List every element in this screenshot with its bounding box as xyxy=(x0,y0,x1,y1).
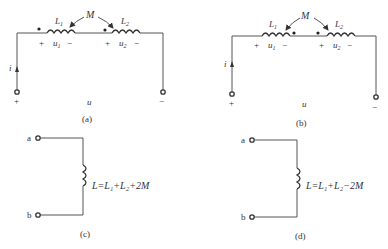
u1-label: u1 xyxy=(268,40,276,51)
current-label: i xyxy=(224,59,227,69)
u1-plus: + xyxy=(39,38,44,48)
u2-label: u2 xyxy=(333,40,341,51)
l2-label: L2 xyxy=(120,16,129,27)
inductor-l1-coil xyxy=(262,33,290,36)
u1-minus: − xyxy=(282,40,287,50)
mutual-label: M xyxy=(85,9,95,20)
terminal-a-label: a xyxy=(241,135,245,145)
figure-a: M L1 L2 + u1 − + u2 − i + − u (a) xyxy=(9,9,165,124)
terminal-b xyxy=(250,215,254,219)
terminal-plus xyxy=(15,90,19,94)
mutual-arrow-left xyxy=(286,18,300,30)
u2-plus: + xyxy=(319,40,324,50)
voltage-label: u xyxy=(302,99,307,109)
inductor-coil xyxy=(297,168,300,189)
u2-label: u2 xyxy=(119,38,127,49)
current-arrow-icon xyxy=(15,66,19,72)
dot-l2 xyxy=(316,31,319,34)
u1-plus: + xyxy=(254,40,259,50)
terminal-b-label: b xyxy=(27,210,32,220)
l1-label: L1 xyxy=(54,16,63,27)
mutual-arrow-left xyxy=(70,17,84,27)
equivalent-inductance-formula: L=L₁+L₂−2M xyxy=(305,180,364,191)
figure-b: M L1 L2 + u1 − + u2 − i + − u (b) xyxy=(224,10,378,128)
terminal-plus-label: + xyxy=(14,96,19,106)
terminal-minus-label: − xyxy=(372,102,377,112)
inductor-l1-coil xyxy=(47,30,75,33)
u2-minus: − xyxy=(134,38,139,48)
caption-d: (d) xyxy=(295,231,306,241)
inductor-l2-coil xyxy=(112,30,140,33)
figure-c: a b L=L₁+L₂+2M (c) xyxy=(27,133,150,239)
l2-label: L2 xyxy=(334,19,343,30)
terminal-minus-label: − xyxy=(159,96,164,106)
u1-label: u1 xyxy=(53,38,61,49)
mutual-arrow-right xyxy=(98,17,113,28)
terminal-a xyxy=(36,136,40,140)
dot-l2 xyxy=(103,28,106,31)
caption-b: (b) xyxy=(296,118,307,128)
terminal-plus-label: + xyxy=(229,98,234,108)
terminal-b xyxy=(36,213,40,217)
u2-minus: − xyxy=(347,40,352,50)
inductor-l2-coil xyxy=(327,33,355,36)
terminal-minus xyxy=(374,95,378,99)
equivalent-inductance-formula: L=L₁+L₂+2M xyxy=(91,180,150,191)
u2-plus: + xyxy=(105,38,110,48)
dot-l1 xyxy=(292,31,295,34)
caption-c: (c) xyxy=(80,229,90,239)
terminal-b-label: b xyxy=(241,212,246,222)
terminal-minus xyxy=(161,90,165,94)
terminal-a xyxy=(250,138,254,142)
l1-label: L1 xyxy=(268,19,277,30)
dot-l1 xyxy=(37,27,40,30)
voltage-label: u xyxy=(87,97,92,107)
terminal-plus xyxy=(230,92,234,96)
terminal-a-label: a xyxy=(27,133,31,143)
current-label: i xyxy=(9,63,12,73)
figure-d: a b L=L₁+L₂−2M (d) xyxy=(241,135,364,241)
u1-minus: − xyxy=(67,38,72,48)
mutual-arrow-right xyxy=(314,18,328,30)
inductor-coil xyxy=(83,165,86,186)
caption-a: (a) xyxy=(82,114,92,124)
mutual-label: M xyxy=(300,10,310,21)
current-arrow-icon xyxy=(230,61,234,67)
coupled-inductor-diagram: M L1 L2 + u1 − + u2 − i + − u (a) M L1 L… xyxy=(0,0,388,249)
